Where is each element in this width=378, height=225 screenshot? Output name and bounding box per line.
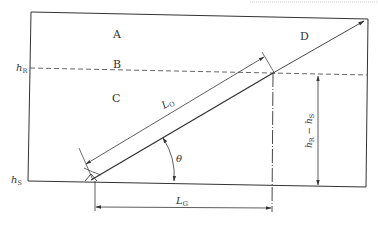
hr-level-dashed-line	[30, 68, 368, 75]
region-label-a: A	[112, 28, 122, 41]
hs-level-label: hS	[11, 174, 22, 187]
lg-dimension-label: LG	[175, 195, 188, 208]
height-diff-label: hR − hS	[304, 114, 316, 148]
angle-arc	[163, 138, 174, 181]
lo-dimension-line	[86, 57, 264, 164]
hr-level-label: hR	[16, 62, 28, 75]
vertical-drop-line	[272, 73, 273, 212]
lo-extension-right	[262, 52, 275, 74]
region-label-b: B	[113, 58, 121, 71]
base-tick-mark	[84, 168, 101, 175]
region-label-c: C	[112, 92, 120, 105]
inclined-line-extension-arrow	[273, 21, 364, 73]
boundary-rectangle	[28, 12, 368, 187]
angle-theta-label: θ	[176, 153, 182, 164]
geometry-diagram: A B C D hR hS LO LG θ hR − hS	[0, 0, 378, 225]
lo-dimension-label: LO	[159, 95, 177, 113]
region-label-d: D	[300, 30, 309, 43]
